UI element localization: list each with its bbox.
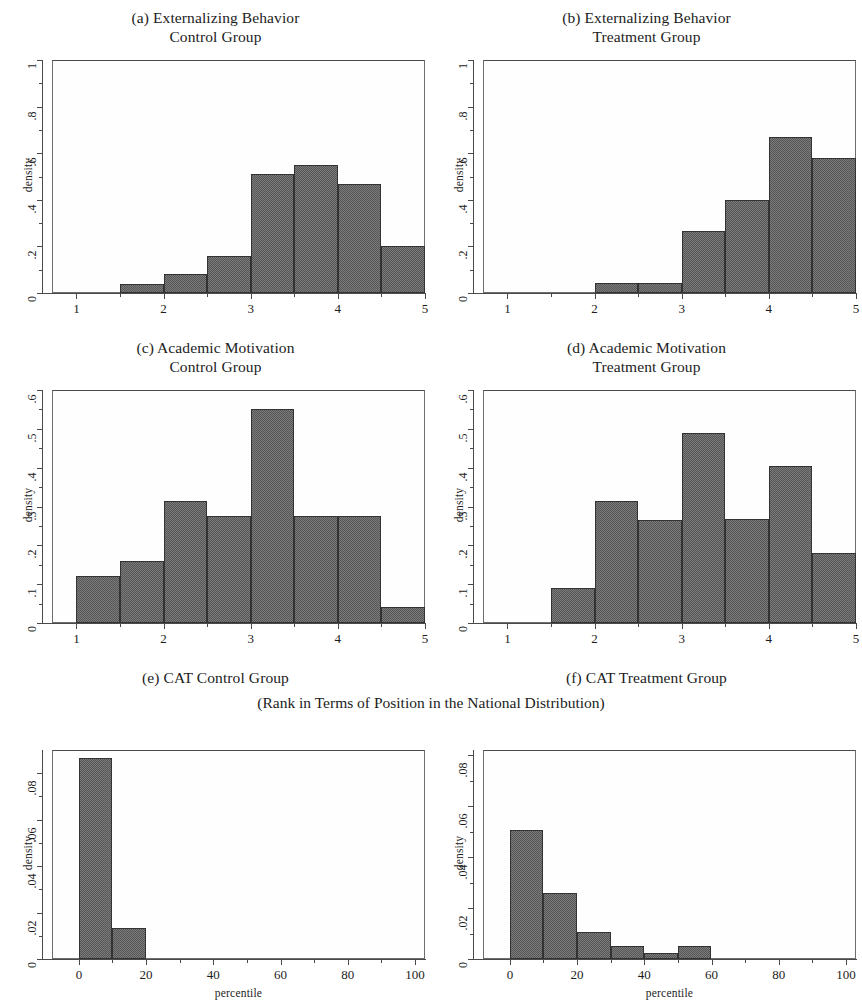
panel-b: (b) Externalizing BehaviorTreatment Grou… (431, 8, 862, 330)
panel-title-line2-d: Treatment Group (431, 357, 862, 376)
bar[interactable] (76, 576, 120, 623)
y-tick (468, 959, 473, 960)
y-tick-label: .8 (456, 111, 471, 120)
bar[interactable] (638, 520, 682, 623)
y-minor-tick (470, 565, 473, 566)
x-tick-label: 5 (853, 631, 860, 647)
bar[interactable] (577, 932, 611, 959)
y-minor-tick (470, 409, 473, 410)
bar[interactable] (164, 274, 208, 293)
panel-title-b: (b) Externalizing BehaviorTreatment Grou… (431, 8, 862, 46)
x-tick (79, 960, 80, 965)
bar[interactable] (338, 184, 382, 294)
y-minor-tick (470, 604, 473, 605)
bars-d (483, 390, 856, 623)
bar[interactable] (611, 946, 645, 959)
x-minor-tick (112, 960, 113, 963)
bar[interactable] (725, 519, 769, 623)
bar[interactable] (638, 283, 682, 293)
x-tick (251, 624, 252, 629)
x-minor-tick (180, 960, 181, 963)
bar[interactable] (769, 466, 813, 623)
y-tick-label: .4 (25, 472, 40, 481)
x-axis-e (42, 959, 426, 960)
bar[interactable] (381, 607, 425, 623)
panel-f: (f) CAT Treatment Group0204060801000.02.… (431, 668, 862, 1001)
bar[interactable] (682, 433, 726, 623)
y-axis-title-a: density (22, 153, 34, 197)
x-tick-label: 1 (504, 631, 511, 647)
bar[interactable] (551, 588, 595, 623)
y-axis-b (473, 60, 474, 294)
x-tick-label: 20 (571, 967, 584, 983)
y-tick (37, 153, 42, 154)
bar[interactable] (510, 830, 544, 959)
y-tick-label: .5 (25, 433, 40, 442)
bar[interactable] (164, 501, 208, 623)
x-tick-label: 1 (73, 631, 80, 647)
bar[interactable] (112, 928, 146, 959)
bar[interactable] (251, 174, 295, 293)
bar[interactable] (769, 137, 813, 293)
x-tick-label: 4 (766, 631, 773, 647)
y-tick (468, 293, 473, 294)
bar[interactable] (79, 758, 113, 959)
bar[interactable] (120, 284, 164, 293)
y-minor-tick (470, 934, 473, 935)
y-tick (37, 200, 42, 201)
bar[interactable] (207, 256, 251, 293)
bar[interactable] (251, 409, 295, 623)
x-minor-tick (381, 960, 382, 963)
bar[interactable] (543, 893, 577, 959)
y-tick-label: 1 (456, 63, 471, 69)
x-tick-label: 40 (638, 967, 651, 983)
bar[interactable] (207, 516, 251, 623)
y-axis-f (473, 750, 474, 960)
x-axis-title-f: percentile (483, 987, 856, 999)
bar[interactable] (381, 246, 425, 293)
y-axis-c (42, 390, 43, 624)
bar[interactable] (595, 501, 639, 623)
y-tick-label: .2 (25, 550, 40, 559)
x-tick (348, 960, 349, 965)
panel-title-line1-e: (e) CAT Control Group (0, 668, 431, 687)
x-tick-label: 80 (341, 967, 354, 983)
bars-a (52, 60, 425, 293)
y-tick (468, 755, 473, 756)
y-axis-title-e: density (22, 831, 34, 875)
y-tick (468, 107, 473, 108)
y-tick-label: .2 (456, 550, 471, 559)
x-axis-a (42, 293, 426, 294)
y-tick (468, 545, 473, 546)
bar[interactable] (812, 553, 856, 623)
x-minor-tick (812, 624, 813, 627)
x-tick (213, 960, 214, 965)
bar[interactable] (725, 200, 769, 293)
bar[interactable] (595, 283, 639, 293)
panel-title-line1-d: (d) Academic Motivation (431, 338, 862, 357)
bar[interactable] (294, 516, 338, 623)
panel-title-c: (c) Academic MotivationControl Group (0, 338, 431, 376)
bar[interactable] (338, 516, 382, 623)
x-tick-label: 4 (335, 301, 342, 317)
y-tick (37, 773, 42, 774)
x-tick-label: 0 (76, 967, 83, 983)
x-tick (779, 960, 780, 965)
x-tick (769, 624, 770, 629)
bar[interactable] (812, 158, 856, 293)
panel-title-line1-b: (b) Externalizing Behavior (431, 8, 862, 27)
y-tick (468, 806, 473, 807)
y-minor-tick (39, 487, 42, 488)
bar[interactable] (682, 231, 726, 293)
x-minor-tick (381, 624, 382, 627)
y-tick (37, 468, 42, 469)
y-minor-tick (470, 83, 473, 84)
y-tick-label: 1 (25, 63, 40, 69)
y-tick-label: 0 (25, 296, 40, 302)
x-tick-label: 100 (836, 967, 856, 983)
y-minor-tick (39, 936, 42, 937)
y-tick (468, 857, 473, 858)
bar[interactable] (120, 561, 164, 623)
bar[interactable] (678, 946, 712, 959)
bar[interactable] (294, 165, 338, 293)
